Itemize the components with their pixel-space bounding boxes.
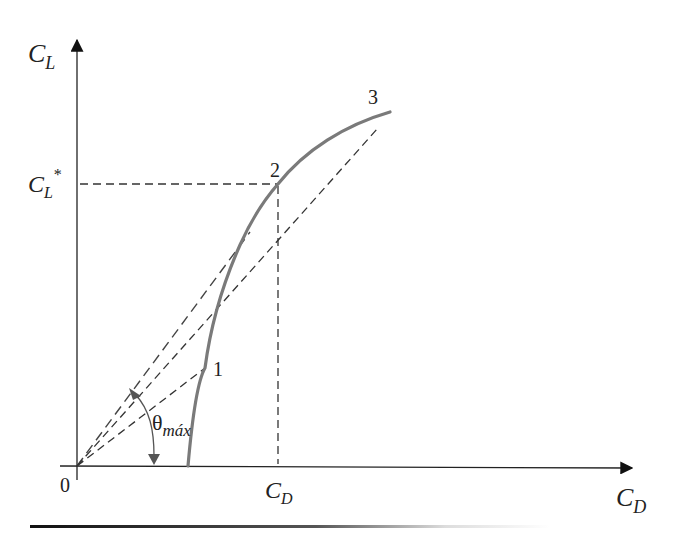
theta-max-label: θmáx <box>152 410 191 440</box>
angle-arrow-down-icon <box>148 454 160 465</box>
ray-to-point-1 <box>77 368 205 466</box>
y-axis-label: CL <box>28 39 55 73</box>
cd-mark-label: CD <box>265 477 293 507</box>
point-3-label: 3 <box>368 86 378 108</box>
ray-to-point-3 <box>77 128 378 466</box>
cl-star-label: CL* <box>28 166 61 201</box>
origin-label: 0 <box>60 474 70 496</box>
x-axis <box>60 466 632 468</box>
bottom-rule <box>30 525 550 528</box>
point-1-label: 1 <box>213 358 223 380</box>
point-2-label: 2 <box>270 159 280 181</box>
drag-polar-curve <box>188 112 390 466</box>
drag-polar-diagram: CL CD 0 CL* CD 1 2 3 θmáx <box>0 0 675 545</box>
x-axis-label: CD <box>616 483 646 517</box>
